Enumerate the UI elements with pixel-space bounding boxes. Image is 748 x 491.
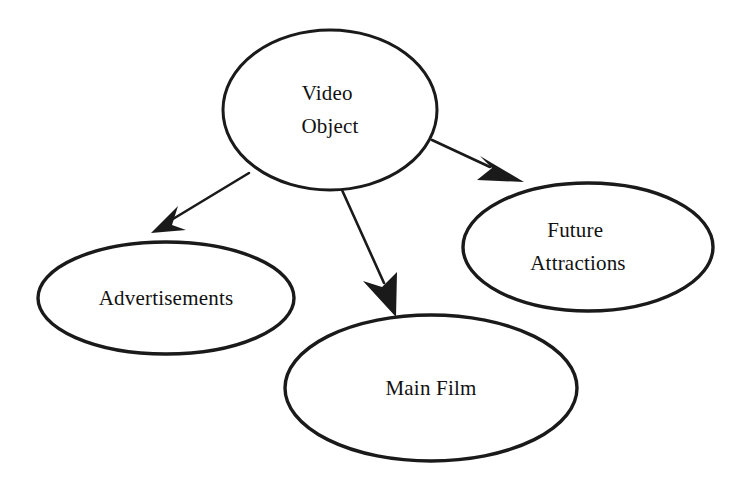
node-advertisements-label-line-1: Advertisements — [99, 286, 234, 310]
node-video-object-label-line-2: Object — [301, 114, 358, 138]
node-main-film-label-line-1: Main Film — [385, 376, 476, 400]
diagram-canvas: Video Object Advertisements Main Film — [0, 0, 748, 491]
edge-video-object-to-main-film[interactable] — [342, 190, 397, 317]
arrowhead-main-film-icon — [363, 272, 397, 317]
node-future-attractions-label-line-1: Future — [547, 218, 603, 242]
node-main-film-label: Main Film — [385, 376, 476, 400]
edge-line-future-attractions — [432, 140, 490, 167]
node-future-attractions-label-line-2: Attractions — [530, 251, 626, 275]
node-layer: Video Object Advertisements Main Film — [38, 30, 713, 461]
arrowhead-advertisements-icon — [151, 206, 186, 233]
arrowhead-future-attractions-icon — [477, 156, 524, 182]
node-main-film[interactable]: Main Film — [285, 315, 577, 461]
edge-video-object-to-advertisements[interactable] — [151, 173, 249, 233]
diagram-root: Video Object Advertisements Main Film — [0, 0, 748, 491]
node-video-object-shape — [223, 30, 437, 190]
node-video-object[interactable]: Video Object — [223, 30, 437, 190]
node-advertisements-label: Advertisements — [99, 286, 234, 310]
edge-video-object-to-future-attractions[interactable] — [432, 140, 524, 182]
edge-line-advertisements — [163, 173, 249, 225]
node-future-attractions[interactable]: Future Attractions — [463, 183, 713, 311]
edge-line-main-film — [342, 190, 384, 283]
node-future-attractions-shape — [463, 183, 713, 311]
node-video-object-label-line-1: Video — [302, 81, 353, 105]
node-advertisements[interactable]: Advertisements — [38, 242, 294, 354]
